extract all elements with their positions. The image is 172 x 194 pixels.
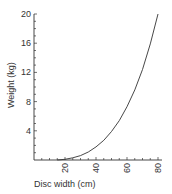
x-tick-label: 60 — [122, 163, 132, 173]
y-tick-label: 16 — [21, 38, 31, 48]
x-tick-label: 80 — [153, 163, 163, 173]
y-tick-label: 8 — [26, 97, 31, 107]
y-axis: 48121620 — [21, 9, 37, 160]
x-tick-label: 20 — [60, 163, 70, 173]
y-tick-label: 12 — [21, 67, 31, 77]
data-curve — [57, 14, 158, 160]
x-axis-title: Disc width (cm) — [34, 179, 96, 189]
y-tick-label: 20 — [21, 9, 31, 19]
y-axis-title: Weight (kg) — [6, 62, 16, 108]
weight-vs-disc-width-chart: 48121620 20406080 Disc width (cm) Weight… — [0, 0, 172, 194]
x-axis: 20406080 — [34, 157, 163, 173]
x-tick-label: 40 — [91, 163, 101, 173]
y-tick-label: 4 — [26, 126, 31, 136]
